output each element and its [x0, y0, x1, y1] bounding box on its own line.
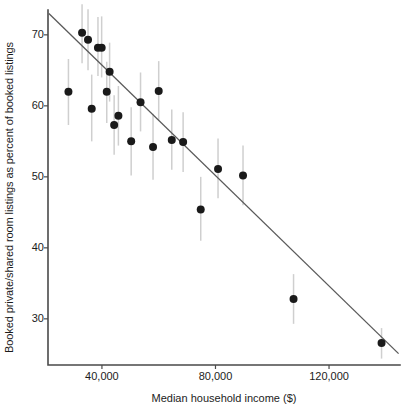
data-point: [149, 143, 157, 151]
data-point: [114, 112, 122, 120]
regression-line: [49, 14, 399, 354]
data-point: [127, 137, 135, 145]
data-point: [110, 121, 118, 129]
data-point: [214, 165, 222, 173]
data-point: [64, 88, 72, 96]
regression-line-segment: [49, 14, 399, 354]
scatter-plot-figure: Booked private/shared room listings as p…: [0, 0, 408, 415]
data-point: [137, 98, 145, 106]
data-point: [103, 88, 111, 96]
data-point: [378, 339, 386, 347]
plot-canvas: [0, 0, 408, 415]
data-point: [239, 171, 247, 179]
error-bars: [68, 4, 381, 358]
data-point: [197, 206, 205, 214]
data-point: [106, 68, 114, 76]
data-point: [78, 29, 86, 37]
data-point: [98, 44, 106, 52]
data-point: [88, 105, 96, 113]
data-point: [179, 138, 187, 146]
data-points: [64, 29, 385, 347]
data-point: [290, 295, 298, 303]
data-point: [155, 87, 163, 95]
data-point: [168, 136, 176, 144]
data-point: [84, 36, 92, 44]
